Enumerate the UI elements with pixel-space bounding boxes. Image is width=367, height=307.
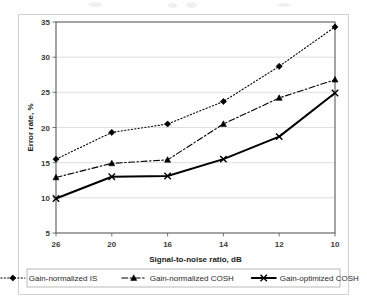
series-layer — [53, 24, 338, 202]
x-tick-label: 16 — [163, 240, 172, 249]
x-tick-label: 14 — [219, 240, 228, 249]
y-tick-label: 15 — [41, 159, 50, 168]
x-tick-labels: 262016141210 — [52, 240, 340, 249]
y-tick-label: 5 — [46, 229, 51, 238]
chart-legend: Gain-normalized ISGain-normalized COSHGa… — [1, 269, 359, 287]
data-point-marker — [220, 98, 226, 104]
data-point-marker — [332, 76, 338, 82]
y-axis-title: Error rate, % — [26, 103, 35, 151]
y-tick-labels: 5101520253035 — [41, 18, 50, 238]
legend-label: Gain-optimized COSH — [280, 274, 359, 283]
data-point-marker — [109, 129, 115, 135]
x-tick-label: 26 — [52, 240, 61, 249]
figure-root: 5101520253035 262016141210 Signal-to-noi… — [0, 0, 367, 307]
data-point-marker — [165, 121, 171, 127]
y-tick-label: 30 — [41, 53, 50, 62]
y-tick-label: 10 — [41, 194, 50, 203]
y-tick-label: 35 — [41, 18, 50, 27]
legend-label: Gain-normalized IS — [29, 274, 97, 283]
y-tick-label: 20 — [41, 124, 50, 133]
x-tick-label: 20 — [107, 240, 116, 249]
error-rate-line-chart: 5101520253035 262016141210 Signal-to-noi… — [0, 0, 367, 307]
data-point-marker — [276, 63, 282, 69]
x-tick-label: 10 — [331, 240, 340, 249]
tick-layer — [53, 22, 336, 237]
y-tick-label: 25 — [41, 88, 50, 97]
grid-layer — [56, 57, 335, 198]
series-line — [56, 93, 335, 199]
x-axis-title: Signal-to-noise ratio, dB — [149, 255, 242, 264]
data-point-marker — [165, 157, 171, 163]
legend-label: Gain-normalized COSH — [150, 274, 234, 283]
data-point-marker — [10, 275, 16, 281]
data-point-marker — [276, 95, 282, 101]
data-point-marker — [53, 156, 59, 162]
legend-item-1[interactable]: Gain-normalized IS — [1, 274, 97, 283]
x-tick-label: 12 — [275, 240, 284, 249]
series-3 — [53, 90, 338, 202]
